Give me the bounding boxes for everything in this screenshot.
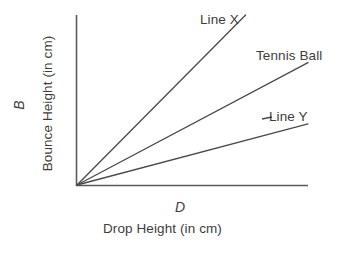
series-label-line-x: Line X [200, 12, 239, 27]
x-axis-title: Drop Height (in cm) [103, 221, 222, 236]
series-label-tennis-ball: Tennis Ball [256, 48, 322, 63]
series-line-line-y [77, 124, 308, 185]
y-axis-title: Bounce Height (in cm) [40, 34, 55, 174]
series-line-line-x [77, 15, 246, 185]
bounce-height-chart: Line X Tennis Ball Line Y B Bounce Heigh… [0, 0, 350, 253]
x-axis-variable-symbol: D [175, 199, 185, 215]
series-label-line-y: Line Y [269, 109, 308, 124]
y-axis-variable-symbol: B [11, 100, 27, 109]
